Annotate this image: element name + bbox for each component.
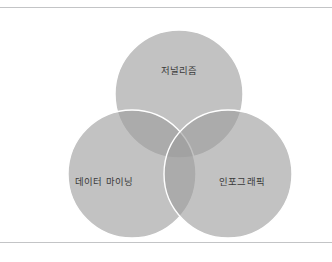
circle-infographics[interactable]: [164, 110, 292, 238]
figure-area: 저널리즘 데이터 마이닝 인포그래픽: [0, 8, 332, 242]
label-infographics: 인포그래픽: [219, 176, 265, 187]
label-journalism: 저널리즘: [161, 65, 198, 76]
venn-diagram-page: 저널리즘 데이터 마이닝 인포그래픽: [0, 0, 332, 262]
venn-circles-group: [68, 30, 292, 238]
label-data-mining: 데이터 마이닝: [75, 176, 133, 187]
venn-diagram-svg: 저널리즘 데이터 마이닝 인포그래픽: [0, 8, 332, 242]
bottom-divider-rule: [0, 242, 332, 243]
